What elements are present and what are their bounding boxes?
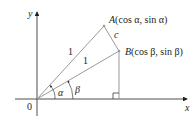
angle-alpha-label: α bbox=[58, 87, 64, 98]
point-B bbox=[118, 50, 121, 53]
point-A-label: A(cos α, sin α) bbox=[108, 14, 167, 26]
angle-alpha-arc bbox=[50, 86, 55, 99]
right-angle-marker bbox=[113, 93, 119, 99]
angle-beta-label: β bbox=[74, 84, 80, 95]
unit-circle-diagram: y x 0 A(cos α, sin α) B(cos β, sin β) c … bbox=[0, 0, 196, 120]
x-axis-label: x bbox=[184, 102, 190, 113]
diagram-canvas: y x 0 A(cos α, sin α) B(cos β, sin β) c … bbox=[0, 0, 196, 120]
segment-OB-length: 1 bbox=[83, 55, 88, 66]
segment-AB-label: c bbox=[114, 29, 119, 40]
segment-OA bbox=[37, 26, 104, 99]
y-axis-label: y bbox=[27, 8, 33, 19]
point-B-label: B(cos β, sin β) bbox=[125, 46, 183, 58]
point-A bbox=[103, 25, 106, 28]
angle-beta-arc bbox=[68, 81, 73, 99]
segment-OA-length: 1 bbox=[68, 46, 73, 57]
origin-label: 0 bbox=[27, 101, 32, 112]
